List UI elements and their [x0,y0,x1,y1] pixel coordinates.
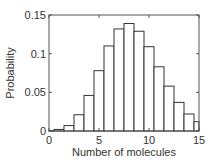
y-tick-label: 0.15 [25,9,46,21]
histogram-bar [134,31,144,131]
histogram-bars [49,24,199,131]
x-tick-label: 10 [143,134,155,146]
histogram-bar [94,71,104,131]
y-tick-label: 0.05 [25,86,46,98]
histogram-bar [194,122,199,131]
histogram-bar [84,95,94,131]
x-tick-labels: 051015 [46,134,205,146]
x-axis-label: Number of molecules [72,146,176,158]
histogram-bar [154,67,164,131]
histogram-bar [174,102,184,131]
x-tick-label: 5 [96,134,102,146]
histogram-bar [184,114,194,131]
histogram-bar [124,24,134,131]
y-tick-labels: 00.050.10.15 [25,9,46,137]
y-axis-label: Probability [4,47,16,99]
histogram-bar [144,47,154,131]
histogram-bar [104,46,114,131]
histogram-bar [114,29,124,131]
y-tick-label: 0.1 [31,48,46,60]
x-tick-label: 15 [193,134,205,146]
histogram-bar [164,86,174,131]
histogram-chart: 00.050.10.15 051015 Number of molecules … [0,0,207,161]
histogram-bar [64,126,74,131]
x-tick-label: 0 [46,134,52,146]
histogram-bar [74,115,84,131]
